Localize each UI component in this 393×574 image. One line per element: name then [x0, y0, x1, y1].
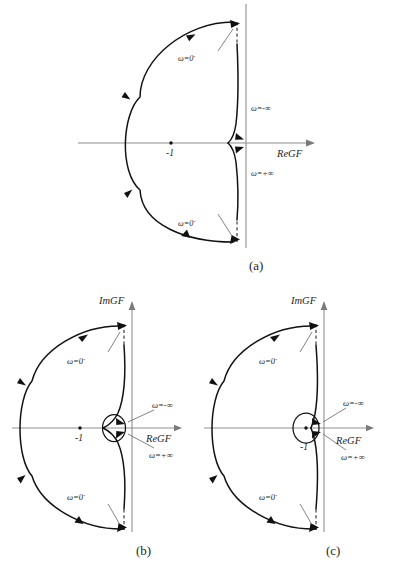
real-axis-label-b: ReGF	[145, 433, 172, 444]
critical-point-c	[304, 426, 307, 429]
caption-b: (b)	[136, 543, 151, 559]
arrowhead-omega0-lower-a	[230, 235, 240, 244]
omega-zero-minus-lower-label-b: ω=0-	[67, 492, 85, 502]
locus-lower-a	[228, 143, 238, 220]
arrowhead-arc-c-1	[270, 335, 280, 343]
nyquist-plot-a: -1 ω=0- ω=0- ω=-∞ ω=+	[78, 4, 328, 256]
critical-point-b	[78, 426, 81, 429]
imag-axis-label-b: ImGF	[98, 295, 125, 306]
omega-neg-infinity-label-a: ω=-∞	[251, 104, 271, 113]
real-axis-b	[12, 425, 182, 432]
nyquist-plot-c: ImGF -1 ω=0- ω=0-	[196, 288, 388, 538]
omega-pos-infinity-label-a: ω=+∞	[251, 169, 274, 178]
arrowhead-omega0-upper-a	[230, 20, 240, 28]
arrowhead-arc-a-4	[181, 230, 190, 238]
arrowhead-arc-c-4	[266, 516, 275, 524]
omega-zero-minus-upper-label-a: ω=0-	[178, 53, 195, 63]
imag-axis-label-c: ImGF	[290, 295, 317, 306]
omega-zero-minus-upper-label-b: ω=0-	[67, 356, 85, 366]
plot-b-canvas: ImGF -1 ω=0- ω=0-	[4, 288, 196, 538]
arrowhead-arc-b-4	[74, 516, 83, 524]
caption-a: (a)	[249, 258, 263, 274]
real-axis-label-a: ReGF	[276, 148, 303, 159]
omega-zero-minus-upper-label-c: ω=0-	[259, 356, 277, 366]
omega-zero-minus-lower-label-c: ω=0-	[259, 492, 277, 502]
leader-omega0-lower-a	[218, 214, 232, 236]
caption-c: (c)	[326, 543, 340, 559]
arrowhead-arc-c-2	[209, 378, 218, 386]
arrowhead-omega0-lower-c	[309, 523, 319, 532]
arrowhead-neg-inf-a	[235, 133, 244, 140]
omega-pos-infinity-label-b: ω=+∞	[149, 450, 173, 460]
real-axis-label-c: ReGF	[335, 435, 362, 446]
imag-axis-b	[129, 301, 136, 532]
locus-upper-b	[103, 345, 125, 428]
plot-a-canvas: -1 ω=0- ω=0- ω=-∞ ω=+	[78, 4, 328, 256]
locus-upper-a	[228, 44, 238, 143]
arrowhead-arc-b-1	[78, 335, 88, 343]
omega-neg-infinity-label-c: ω=-∞	[343, 398, 364, 408]
arrowhead-arc-a-2	[122, 92, 131, 99]
arrowhead-arc-a-1	[186, 34, 196, 41]
arrowhead-omega0-upper-b	[117, 322, 127, 330]
arrowhead-pos-inf-a	[235, 147, 244, 154]
omega-neg-infinity-label-b: ω=-∞	[152, 400, 173, 410]
real-axis-c	[204, 425, 374, 432]
nyquist-plot-b: ImGF -1 ω=0- ω=0-	[4, 288, 196, 538]
arrowhead-arc-c-3	[209, 475, 218, 484]
omega-pos-infinity-label-c: ω=+∞	[341, 452, 365, 462]
critical-point-a	[169, 141, 172, 144]
imag-axis-c	[321, 301, 328, 532]
arrowhead-arc-b-3	[17, 475, 26, 484]
arrowhead-arc-b-2	[17, 378, 26, 386]
arrowhead-omega0-lower-b	[117, 523, 127, 532]
omega-zero-minus-lower-label-a: ω=0-	[178, 218, 195, 228]
leader-omega0-upper-c	[300, 332, 312, 352]
leader-neg-inf-c	[323, 408, 346, 422]
critical-point-label-a: -1	[166, 148, 174, 158]
critical-point-label-b: -1	[75, 433, 83, 443]
leader-omega0-upper-a	[218, 29, 233, 51]
leader-omega0-upper-b	[108, 332, 120, 352]
arrowhead-omega0-upper-c	[309, 322, 319, 330]
leader-omega0-lower-c	[300, 504, 311, 523]
leader-omega0-lower-b	[108, 504, 119, 523]
arrowhead-arc-a-3	[124, 190, 132, 198]
locus-lower-b	[103, 428, 125, 509]
plot-c-canvas: ImGF -1 ω=0- ω=0-	[196, 288, 388, 538]
real-axis-a	[78, 140, 315, 147]
